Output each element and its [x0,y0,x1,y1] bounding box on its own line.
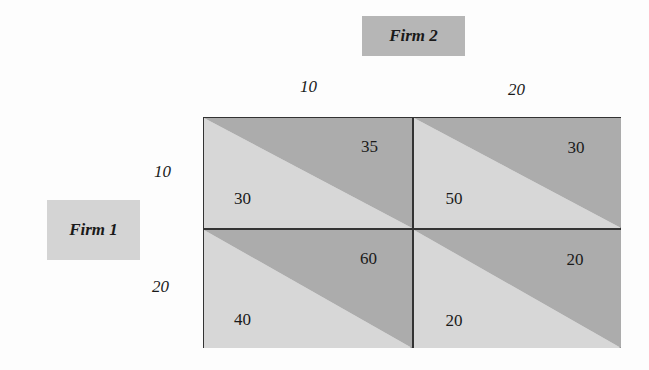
firm1-payoff: 30 [234,189,251,209]
row-divider [204,228,620,230]
firm1-payoff: 20 [446,311,463,331]
column-strategy-10: 10 [300,77,317,97]
payoff-cell-20-10: 40 60 [204,230,412,348]
column-strategy-20: 20 [508,80,525,100]
row-player-label: Firm 1 [47,200,140,260]
column-divider [412,118,414,347]
split-triangles [204,230,412,348]
row-strategy-20: 20 [152,277,169,297]
firm2-payoff: 20 [567,250,584,270]
row-strategy-10: 10 [154,162,171,182]
column-player-label: Firm 2 [362,16,465,56]
firm2-payoff: 35 [361,137,378,157]
firm1-payoff: 40 [234,310,251,330]
firm2-payoff: 30 [568,138,585,158]
payoff-cell-10-20: 50 30 [414,118,621,228]
payoff-cell-20-20: 20 20 [414,230,621,348]
firm2-payoff: 60 [360,249,377,269]
split-triangles [414,118,621,228]
payoff-cell-10-10: 30 35 [204,118,412,228]
payoff-matrix: 30 35 50 30 40 60 20 20 [203,117,621,348]
split-triangles [204,118,412,228]
firm1-payoff: 50 [446,189,463,209]
